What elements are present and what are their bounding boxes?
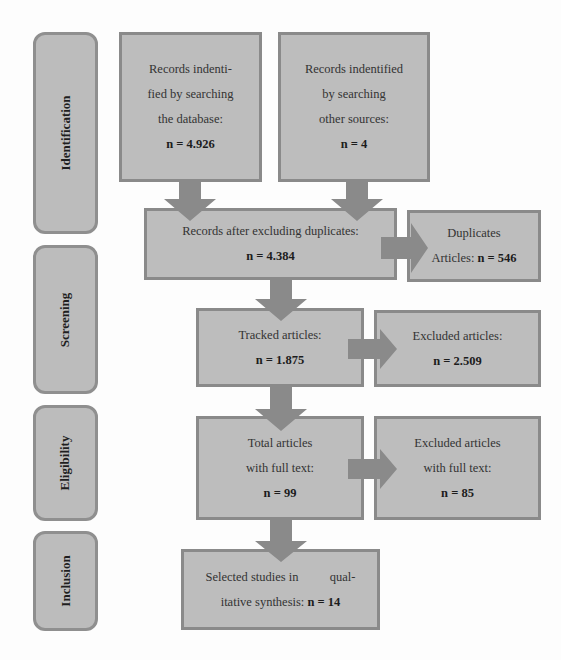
box-database-records: Records indenti- fied by searching the d…: [119, 32, 262, 182]
box-text: with full text:: [423, 456, 491, 481]
box-text: Records after excluding duplicates:: [182, 219, 359, 244]
stage-identification: Identification: [33, 32, 98, 234]
arrow-down-icon: [254, 386, 308, 432]
box-text: the database:: [158, 107, 223, 132]
box-excluded-full-text: Excluded articles with full text: n = 85: [374, 416, 541, 520]
box-text-prefix: itative synthesis:: [221, 595, 308, 609]
box-text: Records indentified: [305, 57, 403, 82]
box-text: Duplicates: [447, 221, 500, 246]
stage-label: Screening: [58, 292, 74, 347]
box-other-sources-records: Records indentified by searching other s…: [278, 32, 430, 182]
arrow-down-icon: [163, 181, 217, 222]
box-text: by searching: [322, 82, 386, 107]
box-text-prefix: Articles:: [431, 251, 477, 265]
stage-label: Eligibility: [58, 436, 74, 491]
stage-eligibility: Eligibility: [33, 405, 98, 521]
box-count: n = 1.875: [256, 348, 304, 373]
box-text: Selected studies in qual-: [206, 565, 356, 590]
box-count: n = 4.926: [166, 132, 214, 157]
box-count: n = 99: [264, 481, 297, 506]
box-text: other sources:: [319, 107, 389, 132]
box-text: Excluded articles:: [413, 324, 503, 349]
arrow-down-icon: [254, 279, 308, 322]
box-count: n = 14: [307, 595, 340, 609]
stage-label: Identification: [58, 95, 74, 170]
stage-inclusion: Inclusion: [33, 531, 98, 631]
box-text: Records indenti-: [149, 57, 232, 82]
box-text: with full text:: [246, 456, 314, 481]
box-count: n = 2.509: [433, 349, 481, 374]
arrow-right-icon: [381, 222, 429, 274]
arrow-right-icon: [348, 328, 398, 370]
box-excluded: Excluded articles: n = 2.509: [374, 310, 541, 387]
box-count: n = 85: [441, 481, 474, 506]
arrow-down-icon: [254, 519, 308, 563]
stage-label: Inclusion: [58, 555, 74, 606]
box-text: Tracked articles:: [238, 323, 321, 348]
arrow-right-icon: [348, 448, 398, 490]
box-count: n = 546: [478, 251, 517, 265]
stage-screening: Screening: [33, 245, 98, 394]
box-text: Articles: n = 546: [431, 246, 516, 271]
box-text: itative synthesis: n = 14: [221, 590, 341, 615]
box-count: n = 4.384: [246, 244, 294, 269]
box-count: n = 4: [341, 132, 368, 157]
box-text: Total articles: [248, 431, 313, 456]
box-text: fied by searching: [147, 82, 233, 107]
arrow-down-icon: [330, 181, 384, 222]
box-text: Excluded articles: [414, 431, 500, 456]
